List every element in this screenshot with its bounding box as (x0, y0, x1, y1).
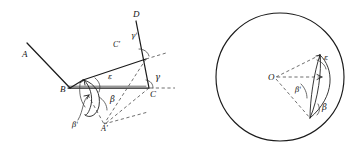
dashed-B-Aprime (88, 95, 104, 124)
label-epsilon: ε (108, 72, 112, 81)
label-C-prime: C' (113, 40, 120, 49)
arc-epsilon (95, 78, 100, 92)
label-D: D (132, 9, 140, 19)
leader-betaprime-arrowhead (84, 95, 89, 99)
label-beta-prime-right: β' (294, 85, 301, 94)
label-beta-prime: β' (71, 120, 78, 129)
label-A: A (21, 49, 28, 59)
label-epsilon-right: ε (324, 53, 328, 62)
label-A-prime: A' (100, 124, 108, 133)
dashed-radius-upper (276, 55, 320, 77)
segment-B-Cprime (83, 59, 146, 80)
segment-B-hook (70, 80, 83, 88)
label-B: B (60, 84, 66, 94)
label-gamma-prime: γ' (131, 31, 138, 40)
label-C: C (150, 89, 157, 99)
arc-gammaprime (139, 49, 149, 56)
label-beta-right: β (321, 102, 327, 112)
segment-D-C (136, 21, 149, 88)
label-gamma: γ (155, 72, 161, 82)
arc-beta (99, 97, 107, 110)
label-beta: β (109, 94, 115, 104)
dashed-radius-lower (276, 79, 310, 118)
label-O: O (268, 72, 275, 82)
figure-root: A B C D C' A' γ γ' β β' ε (0, 0, 360, 156)
left-panel: A B C D C' A' γ γ' β β' ε (21, 9, 175, 133)
geometry-figure: A B C D C' A' γ γ' β β' ε (0, 0, 360, 156)
right-panel: O ε β β' (216, 13, 344, 141)
segment-A-B (27, 43, 70, 88)
arc-betaprime-right (301, 84, 307, 98)
